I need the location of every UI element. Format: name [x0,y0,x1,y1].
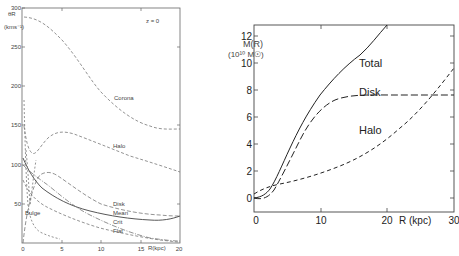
left-xtick-20: 20 [176,246,183,252]
right-ytick-0: 0 [246,193,252,204]
label-corona: Corona [114,95,134,101]
right-xtick-0: 0 [253,215,259,226]
right-xtick-10: 10 [315,215,327,226]
left-xtick-0: 0 [21,246,25,252]
right-ytick-2: 2 [246,166,252,177]
right-ytick-6: 6 [246,112,252,123]
curve-disk-mass [254,95,454,199]
label-disk: Disk [113,201,126,207]
left-xtick-10: 10 [98,246,105,252]
left-ylabel-symbol: θR [8,11,16,17]
right-xtick-20: 20 [381,215,393,226]
right-ytick-4: 4 [246,139,252,150]
left-ylabel-units: (kms⁻¹) [4,24,24,30]
left-ytick-200: 200 [11,83,22,89]
curve-corona [24,17,180,129]
label-bulge: Bulge [25,210,41,216]
label-flat: Flat [113,228,123,234]
left-xtick-15: 15 [138,246,145,252]
label-total: Total [359,57,382,69]
right-ticks [254,25,454,212]
left-plot-frame [22,8,180,243]
curve-halo [24,126,180,172]
left-xlabel: R(kpc) [148,245,166,251]
left-y-ticks [22,8,180,243]
label-halo-mass: Halo [359,124,382,136]
left-annotation-z: z = 0 [146,18,160,24]
right-xtick-30: 30 [448,215,459,226]
curve-halo-mass [254,68,454,194]
left-ytick-100: 100 [11,162,22,168]
curve-disk [23,172,180,243]
right-chart: 12 10 8 6 4 2 0 0 10 20 30 R (kpc) M(R) … [228,25,459,226]
label-disk-mass: Disk [359,86,381,98]
curve-mean [23,158,180,220]
left-ytick-250: 250 [11,44,22,50]
right-ytick-10: 10 [241,58,253,69]
label-crit: Crit [113,219,123,225]
right-ylabel-symbol: M(R) [243,39,263,49]
right-xlabel: R (kpc) [399,215,431,226]
right-plot-frame [254,25,454,212]
figure: 300 250 200 150 100 50 0 5 10 15 20 R(kp… [0,0,459,256]
curve-bulge [24,100,60,239]
right-ylabel-units: (10¹⁰ M☉) [228,50,264,59]
label-halo: Halo [113,143,126,149]
curve-flat [23,180,180,242]
curve-crit [23,165,180,241]
right-ytick-8: 8 [246,85,252,96]
left-xtick-5: 5 [60,246,64,252]
left-ytick-50: 50 [14,201,21,207]
curve-total [254,25,387,198]
label-mean: Mean [113,210,128,216]
left-ytick-150: 150 [11,122,22,128]
left-chart: 300 250 200 150 100 50 0 5 10 15 20 R(kp… [4,5,183,252]
